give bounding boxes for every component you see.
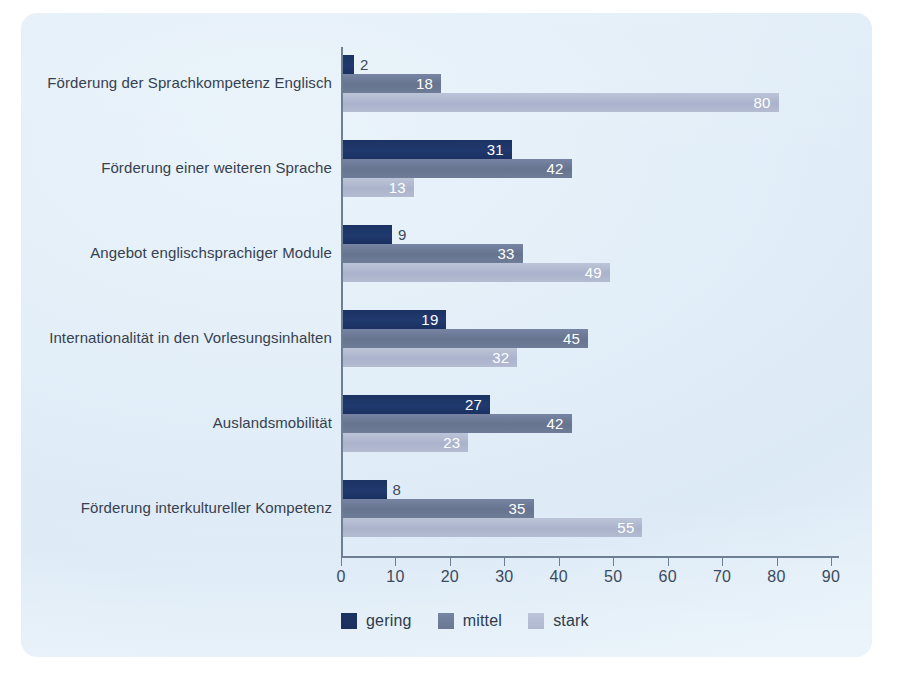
- x-axis-tick-label: 40: [539, 568, 579, 586]
- category-label: Auslandsmobilität: [2, 414, 332, 431]
- bar-value-label: 49: [343, 263, 602, 282]
- bar-value-label: 8: [393, 480, 433, 499]
- x-axis-tick: [831, 558, 832, 566]
- category-label: Internationalität in den Vorlesungsinhal…: [2, 329, 332, 346]
- bar: [343, 480, 387, 499]
- x-axis-tick: [341, 558, 342, 566]
- legend-swatch-icon: [341, 613, 357, 629]
- bar-value-label: 42: [343, 159, 564, 178]
- legend-item-gering[interactable]: gering: [341, 612, 412, 630]
- bar-value-label: 45: [343, 329, 580, 348]
- bar-value-label: 32: [343, 348, 509, 367]
- category-axis-labels: Förderung der Sprachkompetenz EnglischFö…: [0, 0, 332, 676]
- legend-label: mittel: [463, 612, 502, 630]
- bar-value-label: 19: [343, 310, 438, 329]
- legend-label: gering: [366, 612, 412, 630]
- legend-label: stark: [553, 612, 589, 630]
- x-axis-tick: [668, 558, 669, 566]
- category-label: Förderung einer weiteren Sprache: [2, 159, 332, 176]
- bar-value-label: 55: [343, 518, 634, 537]
- x-axis-tick: [559, 558, 560, 566]
- x-axis-tick-label: 20: [430, 568, 470, 586]
- bar-value-label: 33: [343, 244, 515, 263]
- x-axis-tick: [395, 558, 396, 566]
- x-axis-tick-label: 80: [757, 568, 797, 586]
- x-axis-line: [341, 556, 839, 558]
- bar-value-label: 2: [360, 55, 400, 74]
- bar-value-label: 42: [343, 414, 564, 433]
- chart-figure: Förderung der Sprachkompetenz EnglischFö…: [0, 0, 899, 676]
- x-axis-tick: [777, 558, 778, 566]
- x-axis-tick: [504, 558, 505, 566]
- x-axis-tick: [722, 558, 723, 566]
- x-axis-tick-label: 70: [702, 568, 742, 586]
- legend-item-mittel[interactable]: mittel: [438, 612, 502, 630]
- category-label: Förderung interkultureller Kompetenz: [2, 499, 332, 516]
- x-axis-tick: [450, 558, 451, 566]
- bar-value-label: 13: [343, 178, 406, 197]
- legend-swatch-icon: [528, 613, 544, 629]
- x-axis-tick-label: 10: [375, 568, 415, 586]
- bar-value-label: 80: [343, 93, 771, 112]
- x-axis-tick-label: 60: [648, 568, 688, 586]
- bar-value-label: 27: [343, 395, 482, 414]
- x-axis-tick-label: 90: [811, 568, 851, 586]
- x-axis-tick-label: 0: [321, 568, 361, 586]
- legend-swatch-icon: [438, 613, 454, 629]
- bar-value-label: 35: [343, 499, 526, 518]
- bar: [343, 225, 392, 244]
- bar-value-label: 9: [398, 225, 438, 244]
- bar-value-label: 18: [343, 74, 433, 93]
- bar-value-label: 31: [343, 140, 504, 159]
- x-axis-tick-label: 30: [484, 568, 524, 586]
- category-label: Förderung der Sprachkompetenz Englisch: [2, 74, 332, 91]
- legend-item-stark[interactable]: stark: [528, 612, 589, 630]
- category-label: Angebot englischsprachiger Module: [2, 244, 332, 261]
- bar-value-label: 23: [343, 433, 460, 452]
- x-axis-tick-label: 50: [593, 568, 633, 586]
- bar: [343, 55, 354, 74]
- x-axis-tick: [613, 558, 614, 566]
- chart-legend: geringmittelstark: [341, 610, 589, 632]
